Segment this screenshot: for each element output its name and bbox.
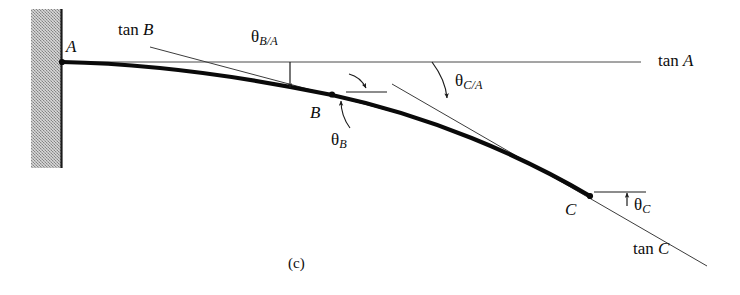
tangent-label-c: tan C <box>633 240 669 257</box>
theta-subscript-b-over-a: B/A <box>259 34 278 48</box>
theta-b-lower-arc <box>341 101 350 128</box>
tan-word-a: tan <box>658 51 679 70</box>
angle-label-theta-b-over-a: θB/A <box>251 28 278 48</box>
theta-symbol-c-over-a: θ <box>455 71 463 90</box>
point-marker-a <box>59 59 65 65</box>
point-label-a: A <box>66 38 76 55</box>
angle-label-theta-b: θB <box>331 131 347 151</box>
figure-drawing-canvas <box>0 0 740 295</box>
figure-caption: (c) <box>288 256 305 271</box>
tan-word-c: tan <box>633 239 654 258</box>
angle-label-theta-c: θC <box>634 196 650 216</box>
point-label-c: C <box>565 201 576 218</box>
angle-label-theta-c-over-a: θC/A <box>455 72 483 92</box>
theta-symbol-b: θ <box>331 130 339 149</box>
point-label-b: B <box>310 104 320 121</box>
theta-subscript-b: B <box>339 137 347 151</box>
theta-subscript-c-over-a: C/A <box>463 78 482 92</box>
elastic-curve <box>62 62 590 196</box>
theta-symbol-b-over-a: θ <box>251 27 259 46</box>
point-marker-b <box>329 91 335 97</box>
tangent-label-a: tan A <box>658 52 693 69</box>
beam-deflection-figure: A B C tan B tan A tan C θB/A θC/A θB θC … <box>0 0 740 295</box>
point-marker-c <box>587 193 593 199</box>
theta-symbol-c: θ <box>634 195 642 214</box>
tangent-label-b: tan B <box>118 21 153 38</box>
tan-point-c: C <box>658 239 669 258</box>
theta-b-upper-arc <box>349 74 366 88</box>
theta-subscript-c: C <box>642 202 650 216</box>
tan-point-a: A <box>683 51 693 70</box>
tan-word-b: tan <box>118 20 139 39</box>
theta-c-over-a-arc <box>432 62 447 98</box>
tan-point-b: B <box>143 20 153 39</box>
